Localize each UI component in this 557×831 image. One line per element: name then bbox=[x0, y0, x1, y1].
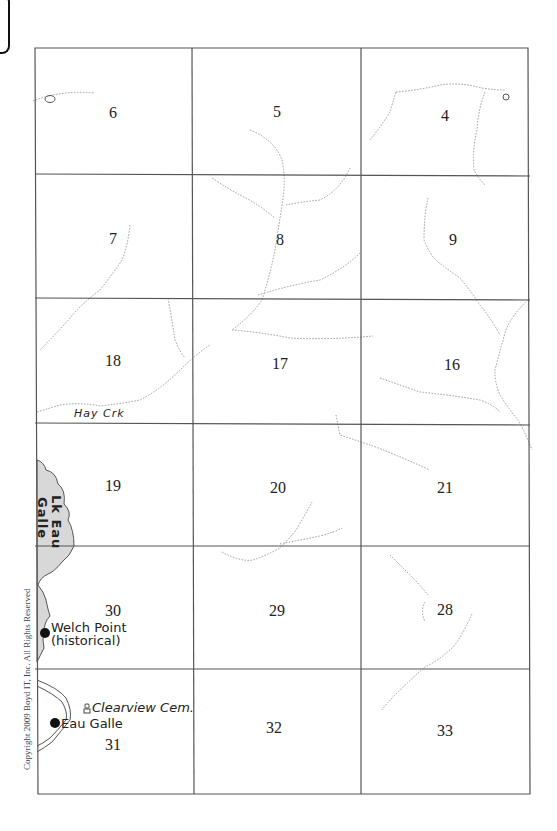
stream bbox=[286, 168, 350, 205]
section-number: 20 bbox=[270, 479, 286, 496]
cemetery-icon bbox=[84, 704, 90, 713]
stream bbox=[396, 84, 505, 92]
stream bbox=[370, 92, 396, 140]
stream bbox=[495, 300, 532, 450]
stream bbox=[390, 555, 428, 595]
stream bbox=[380, 378, 500, 412]
stream bbox=[473, 92, 485, 185]
creek-label: Hay Crk bbox=[74, 407, 125, 420]
section-number: 9 bbox=[449, 231, 457, 248]
stream bbox=[168, 298, 185, 358]
section-number: 31 bbox=[105, 736, 121, 753]
section-number: 6 bbox=[109, 104, 117, 121]
welch-point-historical-label: (historical) bbox=[51, 633, 121, 648]
eau-galle-label: Eau Galle bbox=[61, 716, 123, 731]
section-number: 18 bbox=[105, 352, 121, 369]
section-number: 30 bbox=[105, 602, 121, 619]
section-number: 29 bbox=[269, 602, 285, 619]
town-marker-icon bbox=[40, 628, 50, 638]
section-number: 19 bbox=[105, 477, 121, 494]
lake-label-line2: Galle bbox=[35, 497, 50, 539]
section-line-h3 bbox=[35, 423, 530, 425]
section-number: 16 bbox=[444, 356, 460, 373]
pond-icon bbox=[45, 96, 55, 103]
lake-label-line1: Lk Eau bbox=[49, 495, 64, 549]
section-line-h1 bbox=[35, 174, 530, 176]
section-number: 8 bbox=[276, 231, 284, 248]
section-number: 17 bbox=[272, 355, 288, 372]
section-line-h2 bbox=[35, 298, 530, 300]
section-number: 7 bbox=[109, 230, 117, 247]
stream bbox=[33, 92, 95, 101]
section-number: 21 bbox=[437, 479, 453, 496]
cemetery-label: Clearview Cem. bbox=[92, 700, 194, 715]
section-number: 28 bbox=[437, 601, 453, 618]
section-number: 32 bbox=[266, 719, 282, 736]
stream bbox=[37, 345, 210, 412]
pond-icon bbox=[503, 94, 509, 100]
stream bbox=[232, 330, 373, 339]
section-number: 33 bbox=[437, 722, 453, 739]
stream bbox=[423, 602, 426, 622]
stream bbox=[212, 178, 275, 218]
section-grid-outer bbox=[35, 48, 530, 794]
copyright-text: Copyright 2009 Boyd IT, Inc. All Rights … bbox=[22, 588, 32, 770]
stream bbox=[280, 528, 342, 544]
stream bbox=[232, 130, 284, 330]
section-number: 5 bbox=[273, 103, 281, 120]
section-number: 4 bbox=[441, 107, 449, 124]
town-marker-icon bbox=[50, 718, 60, 728]
stream bbox=[382, 614, 472, 710]
stream bbox=[424, 198, 500, 335]
section-line-v1 bbox=[192, 48, 194, 794]
stream bbox=[222, 502, 312, 560]
plat-map: 6 5 4 7 8 9 18 17 16 19 20 21 30 29 28 3… bbox=[0, 0, 557, 831]
stream bbox=[336, 415, 430, 470]
stream bbox=[258, 253, 360, 295]
